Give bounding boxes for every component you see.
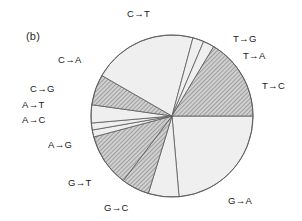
- pie-slices: [91, 35, 253, 197]
- slice-label-text: C→T: [127, 8, 150, 19]
- slice-label-t-to-c: T→C: [262, 80, 285, 91]
- slice-label-text: G→T: [68, 177, 92, 188]
- slice-label-text: A→T: [22, 99, 45, 110]
- slice-label-text: A→C: [22, 114, 46, 125]
- slice-label-c-to-a: C→A: [58, 54, 82, 65]
- slice-label-g-to-c: G→C: [104, 202, 129, 213]
- slice-label-text: G→A: [228, 195, 252, 206]
- pie-slice: [172, 116, 253, 197]
- slice-label-text: T→G: [233, 33, 257, 44]
- slice-label-a-to-c: A→C: [22, 114, 46, 125]
- slice-label-text: A→G: [48, 139, 72, 150]
- pie-chart-figure: (b) C→T T→G T→A T→C G→A G→C G→T A→G A→C …: [0, 0, 302, 221]
- slice-label-text: C→G: [30, 83, 55, 94]
- slice-label-c-to-t: C→T: [127, 8, 150, 19]
- slice-label-text: T→C: [262, 80, 285, 91]
- slice-label-a-to-g: A→G: [48, 139, 72, 150]
- slice-label-g-to-t: G→T: [68, 177, 92, 188]
- slice-label-a-to-t: A→T: [22, 99, 45, 110]
- slice-label-t-to-g: T→G: [233, 33, 257, 44]
- slice-label-g-to-a: G→A: [228, 195, 252, 206]
- slice-label-text: C→A: [58, 54, 82, 65]
- slice-label-text: T→A: [243, 50, 266, 61]
- slice-label-t-to-a: T→A: [243, 50, 266, 61]
- slice-label-c-to-g: C→G: [30, 83, 55, 94]
- slice-label-text: G→C: [104, 202, 129, 213]
- mutation-spectrum-pie: [0, 0, 302, 221]
